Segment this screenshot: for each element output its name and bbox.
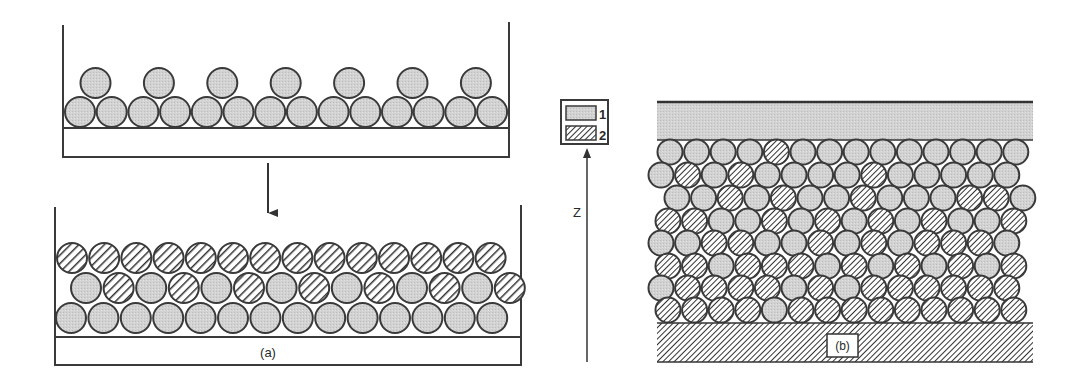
particle-type-1 [915, 163, 940, 188]
particle-type-1 [817, 140, 842, 165]
particle-type-1 [81, 68, 111, 98]
particle-type-1 [824, 186, 849, 211]
particle-type-1 [897, 140, 922, 165]
particle-type-2 [718, 186, 743, 211]
particles-before [65, 68, 507, 127]
particle-type-1 [414, 97, 444, 127]
particle-type-1 [255, 97, 285, 127]
z-axis-label: Z [573, 205, 581, 220]
panel-a-after: (a) [55, 205, 525, 365]
particle-type-2 [771, 186, 796, 211]
particle-type-1 [201, 273, 231, 303]
particle-type-1 [994, 231, 1019, 256]
z-axis-arrowhead-icon [583, 148, 591, 158]
particle-type-1 [283, 303, 313, 333]
particle-type-1 [65, 97, 95, 127]
particle-type-2 [476, 243, 506, 273]
particle-type-2 [364, 273, 394, 303]
particle-type-2 [815, 298, 840, 323]
particle-type-1 [924, 140, 949, 165]
panel-a-label: (a) [260, 345, 276, 360]
particle-type-1 [904, 186, 929, 211]
particle-type-1 [412, 303, 442, 333]
particle-type-2 [702, 231, 727, 256]
legend-swatch-2 [566, 126, 596, 140]
particle-type-2 [957, 186, 982, 211]
particle-type-1 [844, 140, 869, 165]
particle-type-1 [782, 163, 807, 188]
particle-type-2 [975, 298, 1000, 323]
particle-type-2 [735, 298, 760, 323]
particle-type-2 [218, 243, 248, 273]
particle-type-2 [154, 243, 184, 273]
particle-type-2 [682, 298, 707, 323]
particle-type-2 [922, 298, 947, 323]
particle-type-1 [950, 140, 975, 165]
packing-diagram: (a) 1 2 Z (b) [0, 0, 1090, 384]
legend: 1 2 [561, 100, 608, 144]
z-axis: Z [573, 148, 591, 362]
particle-type-1 [121, 303, 151, 333]
particle-type-1 [332, 273, 362, 303]
particle-type-1 [56, 303, 86, 333]
particle-type-2 [1001, 298, 1026, 323]
particle-type-1 [250, 303, 280, 333]
particle-type-1 [348, 303, 378, 333]
particle-type-2 [941, 231, 966, 256]
particle-type-2 [57, 243, 87, 273]
particle-type-1 [398, 68, 428, 98]
particle-type-1 [665, 186, 690, 211]
particle-type-2 [299, 273, 329, 303]
particle-type-1 [144, 68, 174, 98]
particle-type-2 [728, 231, 753, 256]
particle-type-2 [728, 163, 753, 188]
particle-type-1 [287, 97, 317, 127]
particle-type-2 [430, 273, 460, 303]
particle-type-1 [319, 97, 349, 127]
particle-type-2 [984, 186, 1009, 211]
particle-type-2 [808, 231, 833, 256]
particle-type-2 [851, 186, 876, 211]
particle-type-1 [649, 163, 674, 188]
particle-type-1 [675, 231, 700, 256]
particle-type-1 [762, 298, 787, 323]
particle-type-1 [888, 231, 913, 256]
particle-type-1 [808, 163, 833, 188]
particle-type-1 [186, 303, 216, 333]
particle-type-2 [169, 273, 199, 303]
particle-type-2 [948, 298, 973, 323]
particle-type-2 [186, 243, 216, 273]
particle-type-2 [411, 243, 441, 273]
particle-type-2 [789, 298, 814, 323]
particle-type-1 [755, 163, 780, 188]
particle-type-1 [128, 97, 158, 127]
panel-b-label: (b) [835, 339, 850, 353]
particle-type-1 [88, 303, 118, 333]
particle-type-1 [445, 303, 475, 333]
particles-after [56, 243, 525, 333]
particle-type-1 [1003, 140, 1028, 165]
panel-a-before [63, 22, 509, 157]
particle-type-2 [315, 243, 345, 273]
particle-type-2 [234, 273, 264, 303]
particle-type-1 [782, 231, 807, 256]
particle-type-1 [684, 140, 709, 165]
particle-type-1 [649, 231, 674, 256]
particle-type-1 [968, 163, 993, 188]
particle-type-2 [895, 298, 920, 323]
particle-type-2 [861, 163, 886, 188]
particle-type-1 [267, 273, 297, 303]
particle-type-2 [443, 243, 473, 273]
particle-type-1 [445, 97, 475, 127]
particle-type-2 [842, 298, 867, 323]
particle-type-1 [224, 97, 254, 127]
particle-type-2 [104, 273, 134, 303]
particle-type-1 [461, 68, 491, 98]
particle-type-2 [495, 273, 525, 303]
particle-type-2 [89, 243, 119, 273]
particle-type-1 [798, 186, 823, 211]
particle-type-1 [160, 97, 190, 127]
particle-type-1 [977, 140, 1002, 165]
particle-type-1 [888, 163, 913, 188]
particle-type-1 [334, 68, 364, 98]
